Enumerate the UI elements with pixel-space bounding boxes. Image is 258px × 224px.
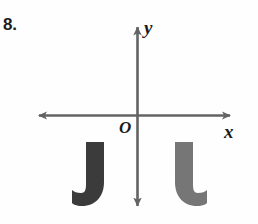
x-axis-label: x — [224, 121, 234, 143]
coordinate-plane-figure: 8. y x O — [0, 0, 258, 224]
l-shape-right — [173, 140, 213, 210]
y-axis-label: y — [144, 17, 152, 39]
j-shape-left — [70, 140, 110, 210]
origin-label: O — [119, 118, 131, 138]
coordinate-axes — [0, 0, 258, 224]
